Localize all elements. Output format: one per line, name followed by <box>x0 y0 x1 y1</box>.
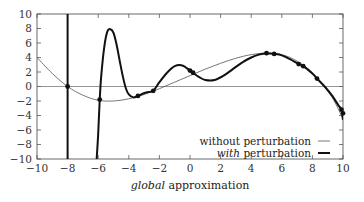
data-point-marker <box>264 51 269 56</box>
x-tick-label: 10 <box>336 162 349 174</box>
x-tick-label: −6 <box>90 162 106 174</box>
data-point-marker <box>301 64 306 69</box>
chart: −10−8−6−4−20246810−10−8−6−4−20246810 wit… <box>0 0 364 202</box>
x-tick-label: −8 <box>60 162 75 174</box>
x-tick-label: 2 <box>217 162 224 174</box>
y-tick-label: −8 <box>17 138 32 150</box>
y-tick-label: 2 <box>25 66 32 78</box>
data-point-marker <box>296 62 301 67</box>
data-point-marker <box>97 97 102 102</box>
x-tick-label: 4 <box>248 162 255 174</box>
x-tick-label: 6 <box>278 162 285 174</box>
y-tick-label: −4 <box>17 109 33 121</box>
x-tick-label: 8 <box>309 162 316 174</box>
legend-label: with perturbation <box>217 147 312 159</box>
x-axis-label: global approximation <box>131 179 250 192</box>
y-tick-label: 4 <box>25 51 32 63</box>
x-tick-label: 0 <box>187 162 194 174</box>
x-tick-label: −4 <box>121 162 137 174</box>
y-tick-label: 6 <box>25 37 32 49</box>
data-point-marker <box>315 76 320 81</box>
y-tick-label: −10 <box>10 153 32 165</box>
y-tick-label: −2 <box>17 95 32 107</box>
legend-label: without perturbation <box>199 135 311 147</box>
data-point-marker <box>341 111 346 116</box>
y-tick-label: 8 <box>25 22 32 34</box>
x-tick-label: −2 <box>152 162 167 174</box>
y-tick-label: 10 <box>19 8 32 20</box>
legend: without perturbationwith perturbation <box>199 135 330 159</box>
data-markers <box>65 51 345 116</box>
y-tick-label: 0 <box>25 80 32 92</box>
y-tick-label: −6 <box>17 124 33 136</box>
data-point-marker <box>136 94 141 99</box>
data-point-marker <box>272 51 277 56</box>
data-point-marker <box>65 84 70 89</box>
data-point-marker <box>191 70 196 75</box>
data-point-marker <box>151 88 156 93</box>
